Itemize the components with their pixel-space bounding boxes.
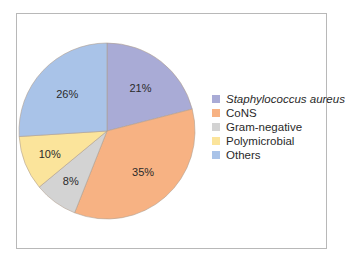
slice-percent-label: 10%: [39, 148, 61, 160]
legend-label: Others: [226, 149, 261, 161]
legend-item-polymicrobial: Polymicrobial: [212, 134, 345, 148]
legend-swatch: [212, 151, 220, 159]
legend-swatch: [212, 95, 220, 103]
legend: Staphylococcus aureus CoNS Gram-negative…: [212, 92, 345, 162]
legend-item-others: Others: [212, 148, 345, 162]
slice-percent-label: 26%: [56, 88, 78, 100]
slice-percent-label: 21%: [129, 82, 151, 94]
legend-swatch: [212, 109, 220, 117]
legend-swatch: [212, 137, 220, 145]
legend-label: Staphylococcus aureus: [226, 93, 345, 105]
slice-percent-label: 35%: [132, 166, 154, 178]
legend-label: CoNS: [226, 107, 257, 119]
legend-label: Polymicrobial: [226, 135, 294, 147]
slice-percent-label: 8%: [63, 175, 79, 187]
legend-item-staph-aureus: Staphylococcus aureus: [212, 92, 345, 106]
legend-item-gram-negative: Gram-negative: [212, 120, 345, 134]
legend-swatch: [212, 123, 220, 131]
legend-item-cons: CoNS: [212, 106, 345, 120]
legend-label: Gram-negative: [226, 121, 302, 133]
